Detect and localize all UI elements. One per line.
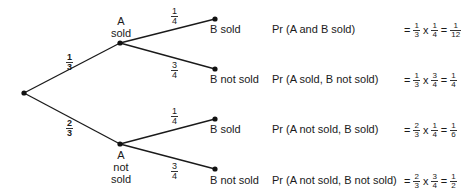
leaf-label-b-not-sold-2: B not sold	[210, 174, 259, 186]
label-line: sold	[106, 173, 136, 185]
branch-a-sold-b-not-sold	[120, 43, 215, 69]
label-line: sold	[106, 27, 136, 39]
node-a-not-sold	[117, 141, 122, 146]
node-b-not-sold-1	[212, 66, 217, 71]
leaf-label-b-sold-1: B sold	[210, 23, 241, 35]
prob-a-not-sold: 23	[65, 119, 74, 138]
outcome-equation-3: =23x14=16	[402, 119, 458, 140]
node-root	[21, 90, 26, 95]
outcome-equation-4: =23x34=12	[402, 170, 458, 191]
outcome-event-3: Pr (A not sold, B sold)	[272, 123, 378, 135]
outcome-equation-1: =13x14=112	[402, 19, 462, 40]
branch-a-not-sold-b-sold	[120, 119, 215, 144]
outcome-event-1: Pr (A and B sold)	[272, 23, 355, 35]
prob-a-sold: 13	[65, 53, 74, 72]
label-line: A	[106, 149, 136, 161]
leaf-label-b-sold-2: B sold	[210, 123, 241, 135]
node-b-sold-2	[212, 116, 217, 121]
leaf-label-b-not-sold-1: B not sold	[210, 73, 259, 85]
node-b-sold-1	[212, 16, 217, 21]
prob-b-sold-2: 14	[170, 107, 179, 126]
node-b-not-sold-2	[212, 166, 217, 171]
node-label-a-sold: A sold	[106, 15, 136, 39]
label-line: A	[106, 15, 136, 27]
outcome-event-4: Pr (A not sold, B not sold)	[272, 174, 397, 186]
outcome-event-2: Pr (A sold, B not sold)	[272, 73, 378, 85]
prob-b-not-sold-1: 34	[170, 61, 179, 80]
prob-b-sold-1: 14	[170, 7, 179, 26]
outcome-equation-2: =13x34=14	[402, 69, 458, 90]
label-line: not	[106, 161, 136, 173]
node-a-sold	[117, 40, 122, 45]
prob-b-not-sold-2: 34	[170, 162, 179, 181]
node-label-a-not-sold: A not sold	[106, 149, 136, 185]
